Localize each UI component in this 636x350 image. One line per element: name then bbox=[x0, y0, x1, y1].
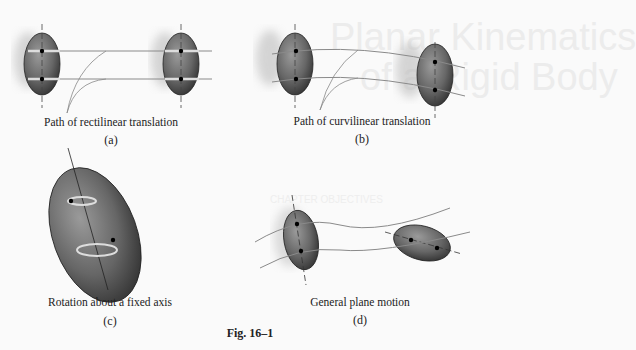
panel-c-illustration bbox=[32, 148, 159, 315]
label-a: (a) bbox=[104, 133, 117, 148]
caption-b: Path of curvilinear translation bbox=[293, 115, 430, 127]
panel-b-illustration bbox=[256, 24, 465, 118]
caption-c: Rotation about a fixed axis bbox=[48, 296, 172, 308]
panel-d-illustration bbox=[255, 195, 470, 285]
label-c: (c) bbox=[103, 314, 116, 329]
caption-d: General plane motion bbox=[310, 296, 410, 308]
label-b: (b) bbox=[355, 132, 369, 147]
panel-a-illustration bbox=[14, 24, 212, 113]
label-d: (d) bbox=[353, 313, 367, 328]
caption-a: Path of rectilinear translation bbox=[44, 116, 178, 128]
figure-number: Fig. 16–1 bbox=[227, 326, 274, 341]
